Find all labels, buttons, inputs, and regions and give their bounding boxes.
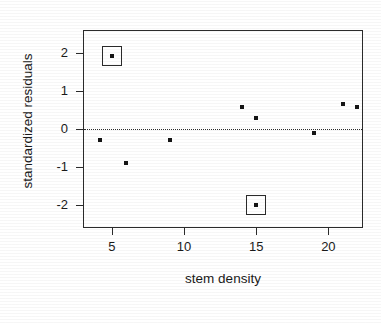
y-tick-mark [76,53,83,54]
x-tick-mark [184,228,185,235]
data-point [240,105,244,109]
x-axis-title: stem density [83,272,363,286]
y-tick-mark [76,205,83,206]
y-tick-label: 0 [8,122,68,135]
residual-scatter-chart: standardized residuals stem density 210-… [0,0,381,323]
zero-residual-line [84,129,362,130]
y-tick-mark [76,91,83,92]
data-point [355,105,359,109]
y-tick-mark [76,129,83,130]
data-point [124,161,128,165]
x-tick-mark [112,228,113,235]
y-tick-label: -1 [8,160,68,173]
data-point [312,131,316,135]
y-tick-label: 1 [8,84,68,97]
x-tick-label: 15 [236,240,276,254]
x-tick-mark [256,228,257,235]
y-tick-mark [76,167,83,168]
data-point [341,102,345,106]
data-point [98,138,102,142]
data-point [254,116,258,120]
y-tick-label: 2 [8,46,68,59]
data-point-outlier [254,203,258,207]
y-tick-label: -2 [8,198,68,211]
data-point [168,138,172,142]
x-tick-label: 10 [164,240,204,254]
x-tick-label: 20 [308,240,348,254]
data-point-outlier [110,54,114,58]
x-tick-label: 5 [92,240,132,254]
x-tick-mark [328,228,329,235]
